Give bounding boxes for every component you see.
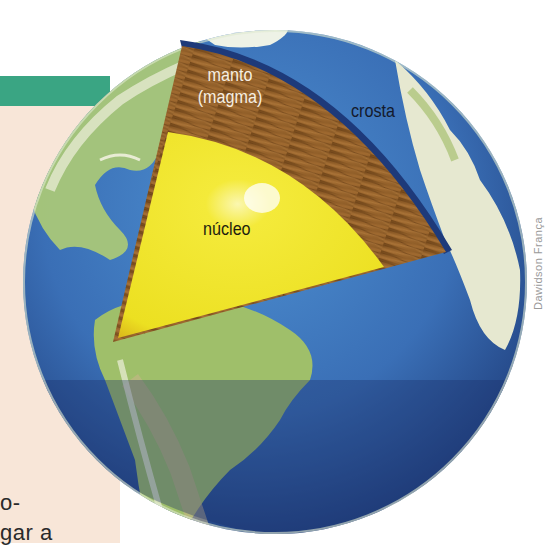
mantle-label-line2: (magma)	[196, 86, 264, 108]
core-label: núcleo	[203, 218, 251, 240]
mantle-label-line1: manto	[196, 64, 264, 86]
crust-label: crosta	[351, 100, 395, 122]
image-credit: Dawidson França	[532, 217, 544, 310]
core-highlight	[244, 183, 280, 213]
mantle-label: manto (magma)	[196, 64, 264, 108]
